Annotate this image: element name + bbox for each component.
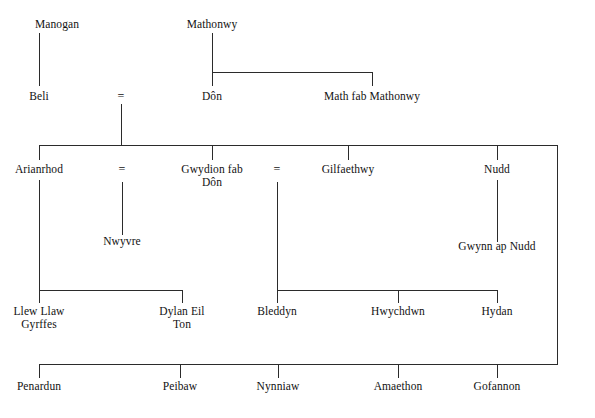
person-don: Dôn	[175, 90, 249, 103]
person-gwynn-ap-nudd: Gwynn ap Nudd	[443, 240, 551, 253]
connector-bottom-row-bar	[39, 364, 558, 365]
connector-mathonwy-drop	[212, 33, 213, 72]
connector-tick-arianrhod	[39, 145, 40, 160]
connector-gwydion-children-bar	[277, 290, 498, 291]
connector-tick-peibaw	[180, 364, 181, 378]
person-penardun: Penardun	[0, 380, 78, 393]
connector-tick-dylan-eil-ton	[182, 290, 183, 303]
connector-tick-gwydion	[212, 145, 213, 160]
connector-manogan-beli	[39, 33, 40, 86]
connector-nudd-gwynn	[497, 180, 498, 242]
person-beli: Beli	[0, 90, 78, 103]
person-peibaw: Peibaw	[141, 380, 219, 393]
person-gofannon: Gofannon	[458, 380, 536, 393]
connector-arianrhod-children-bar	[39, 290, 183, 291]
marriage-gwydion-gilfaethwy: =	[260, 163, 294, 176]
person-nwyvre: Nwyvre	[85, 235, 159, 248]
connector-tick-don	[212, 72, 213, 86]
person-llew-llaw-gyrffes: Llew Llaw Gyrffes	[0, 305, 78, 331]
connector-children-of-don-bar	[39, 145, 558, 146]
person-hydan: Hydan	[461, 305, 533, 318]
person-math-fab-mathonwy: Math fab Mathonwy	[305, 90, 439, 103]
connector-tick-gofannon	[497, 364, 498, 378]
person-arianrhod: Arianrhod	[0, 163, 78, 176]
person-amaethon: Amaethon	[355, 380, 441, 393]
connector-right-spine	[557, 145, 558, 365]
connector-tick-nynniaw	[278, 364, 279, 378]
connector-tick-amaethon	[398, 364, 399, 378]
connector-tick-llew-llaw-gyrffes	[39, 290, 40, 303]
person-manogan: Manogan	[0, 18, 114, 31]
connector-beli-don-marriage-drop	[121, 104, 122, 145]
connector-tick-bleddyn	[277, 290, 278, 303]
marriage-arianrhod-gwydion: =	[105, 163, 139, 176]
connector-mathonwy-children-bar	[212, 72, 373, 73]
connector-tick-hydan	[497, 290, 498, 303]
connector-tick-nudd	[497, 145, 498, 160]
person-bleddyn: Bleddyn	[238, 305, 316, 318]
person-gwydion-fab-don: Gwydion fab Dôn	[160, 163, 264, 189]
connector-arianrhod-gwydion-drop	[122, 182, 123, 235]
connector-tick-math-fab-mathonwy	[372, 72, 373, 86]
person-nudd: Nudd	[460, 163, 534, 176]
connector-tick-penardun	[39, 364, 40, 378]
person-nynniaw: Nynniaw	[239, 380, 317, 393]
connector-arianrhod-drop	[39, 180, 40, 290]
person-dylan-eil-ton: Dylan Eil Ton	[143, 305, 221, 331]
connector-tick-gilfaethwy	[348, 145, 349, 160]
person-hwychdwn: Hwychdwn	[355, 305, 441, 318]
family-tree-diagram: Manogan Mathonwy Beli = Dôn Math fab Mat…	[0, 0, 595, 418]
person-mathonwy: Mathonwy	[157, 18, 267, 31]
connector-tick-hwychdwn	[398, 290, 399, 303]
marriage-beli-don: =	[104, 90, 138, 103]
person-gilfaethwy: Gilfaethwy	[302, 163, 394, 176]
connector-gwydion-gilfaethwy-drop	[277, 182, 278, 290]
